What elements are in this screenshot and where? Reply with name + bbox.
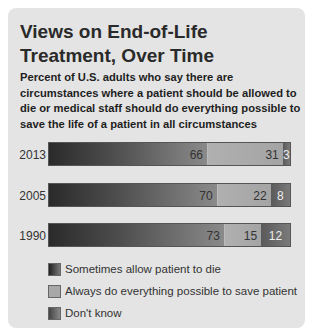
bar-row-2005: 2005 70 22 8	[0, 183, 315, 209]
legend-label: Sometimes allow patient to die	[65, 263, 221, 275]
legend-swatch	[48, 307, 61, 320]
segment-dont-know: 3	[283, 143, 290, 165]
segment-sometimes: 70	[49, 184, 218, 206]
value-label: 31	[265, 148, 278, 162]
value-label: 12	[269, 229, 282, 243]
value-label: 73	[207, 229, 220, 243]
legend-swatch	[48, 263, 61, 276]
segment-always: 22	[218, 184, 271, 206]
year-label: 2005	[18, 189, 46, 203]
bar-row-2013: 2013 66 31 3	[0, 142, 315, 168]
segment-always: 31	[208, 143, 283, 165]
legend-label: Always do everything possible to save pa…	[65, 285, 297, 297]
segment-dont-know: 8	[271, 184, 290, 206]
stacked-bar: 66 31 3	[48, 142, 291, 166]
value-label: 15	[244, 229, 257, 243]
chart-title: Views on End-of-Life Treatment, Over Tim…	[20, 20, 300, 68]
year-label: 2013	[18, 148, 46, 162]
value-label: 66	[190, 148, 203, 162]
year-label: 1990	[18, 229, 46, 243]
segment-dont-know: 12	[261, 224, 290, 246]
bar-row-1990: 1990 73 15 12	[0, 223, 315, 249]
segment-sometimes: 66	[49, 143, 208, 165]
value-label: 8	[277, 189, 284, 203]
legend-swatch	[48, 285, 61, 298]
stacked-bar: 70 22 8	[48, 183, 291, 207]
stacked-bar: 73 15 12	[48, 223, 291, 247]
value-label: 3	[283, 148, 290, 162]
legend-label: Don't know	[65, 307, 122, 319]
value-label: 70	[199, 189, 212, 203]
value-label: 22	[253, 189, 266, 203]
segment-sometimes: 73	[49, 224, 225, 246]
segment-always: 15	[225, 224, 261, 246]
chart-subtitle: Percent of U.S. adults who say there are…	[20, 70, 310, 132]
